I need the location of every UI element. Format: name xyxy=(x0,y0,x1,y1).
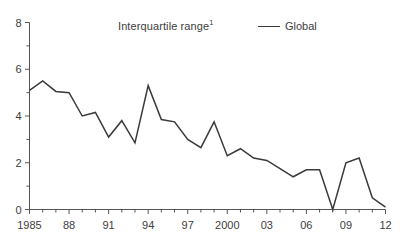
legend-line-swatch-global xyxy=(258,26,280,27)
chart-title-text: Interquartile range xyxy=(118,20,209,32)
chart-figure: Interquartile range1 Global 024681985889… xyxy=(0,0,400,246)
x-axis-tick-label: 03 xyxy=(261,219,273,231)
x-axis-tick-label: 12 xyxy=(379,219,391,231)
chart-plot-area: 02468198588919497200003060912 xyxy=(0,0,400,246)
x-axis-tick-label: 1985 xyxy=(17,219,41,231)
x-axis-tick-label: 09 xyxy=(340,219,352,231)
x-axis-tick-label: 88 xyxy=(63,219,75,231)
legend-label-global: Global xyxy=(285,20,317,32)
y-axis-tick-label: 6 xyxy=(15,63,21,75)
x-axis-tick-label: 97 xyxy=(182,219,194,231)
chart-legend: Global xyxy=(258,20,317,32)
chart-title-footnote-marker: 1 xyxy=(209,18,213,27)
data-line-global xyxy=(30,81,386,210)
y-axis-tick-label: 0 xyxy=(15,204,21,216)
x-axis-tick-label: 06 xyxy=(300,219,312,231)
x-axis-tick-label: 2000 xyxy=(215,219,239,231)
chart-title: Interquartile range1 xyxy=(118,20,213,32)
x-axis-tick-label: 91 xyxy=(102,219,114,231)
y-axis-tick-label: 4 xyxy=(15,110,21,122)
y-axis-tick-label: 2 xyxy=(15,157,21,169)
x-axis-tick-label: 94 xyxy=(142,219,154,231)
y-axis-tick-label: 8 xyxy=(15,17,21,29)
